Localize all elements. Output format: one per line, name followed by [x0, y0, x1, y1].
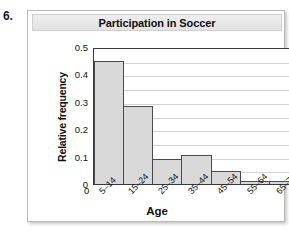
chart-title: Participation in Soccer: [99, 17, 216, 29]
bar: [123, 106, 153, 184]
y-axis-tick-label: 0.5: [75, 43, 88, 53]
chart-title-banner: Participation in Soccer: [32, 14, 282, 31]
x-axis-title: Age: [32, 205, 282, 217]
y-axis-tick-label: 0.4: [75, 70, 88, 80]
y-axis-tick-label: 0.1: [75, 153, 88, 163]
exercise-number: 6.: [3, 9, 13, 23]
bar-series: [94, 49, 289, 184]
y-axis-tick-labels: 00.10.20.30.40.5: [66, 38, 90, 196]
bar: [94, 61, 124, 184]
x-axis-origin-label: 0: [84, 185, 89, 196]
chart-card: Participation in Soccer Relative frequen…: [27, 10, 285, 222]
y-axis-tick-label: 0.3: [75, 98, 88, 108]
plot-area: [93, 48, 289, 185]
y-axis-tick-label: 0.2: [75, 125, 88, 135]
